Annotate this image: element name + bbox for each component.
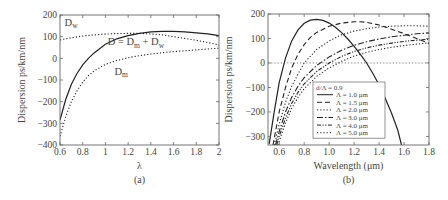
y-tick-label: 0 xyxy=(52,54,57,64)
panel-label: (a) xyxy=(134,174,145,186)
legend: d/Λ = 0.9Λ = 1.0 μmΛ = 1.5 μmΛ = 2.0 μmΛ… xyxy=(313,82,385,138)
x-axis-title: λ xyxy=(137,160,142,171)
panel-a-dispersion-vs-lambda: 0.60.811.21.41.61.82−400−300−200−1000100… xyxy=(16,10,222,186)
y-axis-title: Dispersion ps/km/nm xyxy=(223,36,234,122)
y-axis: −400−300−200−1000100200 xyxy=(37,10,219,150)
legend-entry: Λ = 5.0 μm xyxy=(336,129,369,137)
x-tick-label: 1.8 xyxy=(190,147,202,157)
y-tick-label: 100 xyxy=(43,32,58,42)
y-tick-label: −200 xyxy=(37,97,57,107)
chart-canvas: 0.60.811.21.41.61.82−400−300−200−1000100… xyxy=(0,0,448,200)
x-tick-label: 2 xyxy=(217,147,222,157)
x-tick-label: 0.8 xyxy=(298,147,310,157)
x-tick-label: 1.2 xyxy=(348,147,360,157)
x-tick-label: 1 xyxy=(103,147,108,157)
y-tick-label: −300 xyxy=(37,119,57,129)
y-axis-title: Dispersion ps/km/nm xyxy=(16,37,27,123)
x-tick-label: 0.6 xyxy=(273,147,285,157)
figure: 0.60.811.21.41.61.82−400−300−200−1000100… xyxy=(0,0,448,200)
panel-label: (b) xyxy=(343,174,355,186)
series-line-2 xyxy=(60,48,219,136)
curve-annotation: Dw xyxy=(65,17,79,31)
curve-annotation: Dm xyxy=(115,66,129,80)
x-tick-label: 1.6 xyxy=(398,147,410,157)
x-tick-label: 1.0 xyxy=(323,147,335,157)
x-axis-title: Wavelength (μm) xyxy=(314,160,384,172)
x-tick-label: 0.8 xyxy=(77,147,89,157)
plot-frame xyxy=(60,15,219,145)
y-tick-label: 0 xyxy=(260,58,265,68)
y-tick-label: −200 xyxy=(245,107,265,117)
x-tick-label: 1.6 xyxy=(168,147,180,157)
x-tick-label: 1.4 xyxy=(145,147,157,157)
y-tick-label: −300 xyxy=(245,132,265,142)
y-tick-label: 200 xyxy=(251,9,266,19)
x-tick-label: 1.8 xyxy=(423,147,435,157)
y-tick-label: −100 xyxy=(245,83,265,93)
panel-b-dispersion-vs-wavelength: 0.60.81.01.21.41.61.8−300−200−1000100200… xyxy=(223,9,435,186)
y-tick-label: 200 xyxy=(43,10,58,20)
curve-annotation: D = Dm + Dw xyxy=(108,36,165,50)
y-tick-label: −100 xyxy=(37,75,57,85)
y-tick-label: −400 xyxy=(37,140,57,150)
y-tick-label: 100 xyxy=(251,34,266,44)
x-tick-label: 1.2 xyxy=(122,147,134,157)
x-tick-label: 1.4 xyxy=(373,147,385,157)
